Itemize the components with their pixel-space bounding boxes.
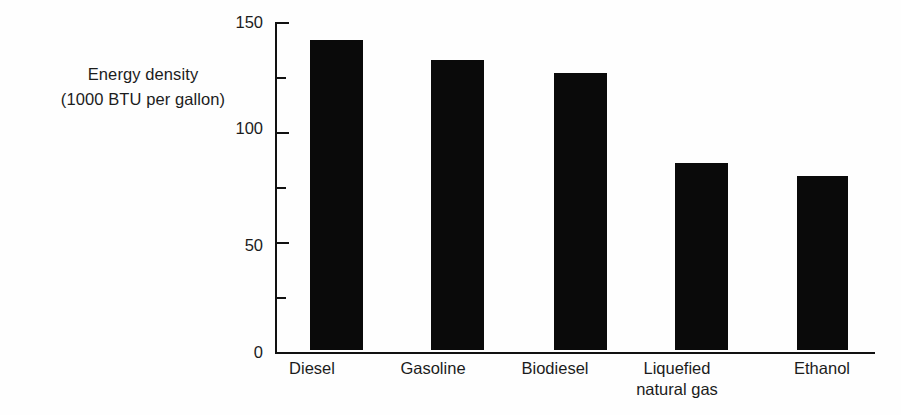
bar-liquefied-natural-gas bbox=[675, 163, 728, 350]
y-axis-minor-tick-125 bbox=[277, 77, 286, 79]
y-axis-title: Energy density (1000 BTU per gallon) bbox=[38, 62, 248, 112]
y-axis-minor-tick-25 bbox=[277, 297, 286, 299]
y-axis-title-line-1: Energy density bbox=[38, 62, 248, 87]
y-axis-tick-150 bbox=[277, 22, 289, 24]
y-axis-minor-tick-75 bbox=[277, 187, 286, 189]
x-axis-label-diesel-line-1: Diesel bbox=[250, 358, 374, 379]
bar-biodiesel bbox=[554, 73, 607, 350]
x-axis-label-gasoline: Gasoline bbox=[371, 358, 495, 379]
bar-gasoline bbox=[431, 60, 484, 350]
bar-ethanol bbox=[797, 176, 848, 350]
y-axis-tick-50 bbox=[277, 242, 289, 244]
y-axis-tick-100 bbox=[277, 132, 289, 134]
x-axis-label-lng-line-2: natural gas bbox=[615, 379, 739, 400]
y-tick-label-50: 50 bbox=[205, 237, 263, 254]
plot-area bbox=[275, 22, 875, 352]
x-axis-label-gasoline-line-1: Gasoline bbox=[371, 358, 495, 379]
x-axis-label-ethanol-line-1: Ethanol bbox=[760, 358, 884, 379]
y-axis-title-line-2: (1000 BTU per gallon) bbox=[38, 87, 248, 112]
x-axis-label-ethanol: Ethanol bbox=[760, 358, 884, 379]
x-axis-label-diesel: Diesel bbox=[250, 358, 374, 379]
y-tick-label-100: 100 bbox=[205, 120, 263, 137]
x-axis-label-biodiesel-line-1: Biodiesel bbox=[493, 358, 617, 379]
x-axis-line bbox=[275, 352, 875, 354]
y-tick-label-150: 150 bbox=[205, 14, 263, 31]
bar-chart-figure: Energy density (1000 BTU per gallon) 150… bbox=[0, 0, 901, 415]
bar-diesel bbox=[310, 40, 363, 350]
x-axis-label-lng-line-1: Liquefied bbox=[615, 358, 739, 379]
x-axis-label-liquefied-natural-gas: Liquefied natural gas bbox=[615, 358, 739, 400]
x-axis-label-biodiesel: Biodiesel bbox=[493, 358, 617, 379]
